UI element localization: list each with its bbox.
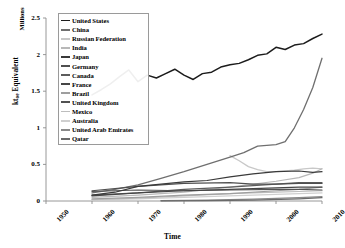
legend-swatch-icon bbox=[61, 47, 70, 49]
legend-swatch-icon bbox=[61, 101, 70, 103]
legend-swatch-icon bbox=[61, 38, 70, 40]
legend-item-canada[interactable]: Canada bbox=[60, 71, 148, 80]
legend-swatch-icon bbox=[61, 56, 70, 58]
legend-item-india[interactable]: India bbox=[60, 43, 148, 52]
legend-label: Brazil bbox=[72, 89, 89, 98]
legend-label: France bbox=[72, 80, 91, 89]
chart-legend: United StatesChinaRussian FederationIndi… bbox=[58, 13, 149, 145]
legend-swatch-icon bbox=[61, 120, 70, 122]
legend-item-qatar[interactable]: Qatar bbox=[60, 134, 148, 143]
legend-label: China bbox=[72, 25, 89, 34]
legend-label: Canada bbox=[72, 71, 94, 80]
legend-label: United Arab Emirates bbox=[72, 125, 133, 134]
legend-item-russian-federation[interactable]: Russian Federation bbox=[60, 34, 148, 43]
legend-item-united-kingdom[interactable]: United Kingdom bbox=[60, 98, 148, 107]
legend-swatch-icon bbox=[61, 29, 70, 31]
legend-item-germany[interactable]: Germany bbox=[60, 61, 148, 70]
legend-swatch-icon bbox=[61, 92, 70, 94]
chart-container: Millions ktoe Equivalent Time 00.511.522… bbox=[0, 0, 345, 248]
legend-label: Qatar bbox=[72, 134, 89, 143]
legend-item-china[interactable]: China bbox=[60, 25, 148, 34]
legend-swatch-icon bbox=[61, 20, 70, 22]
legend-item-australia[interactable]: Australia bbox=[60, 116, 148, 125]
legend-item-united-arab-emirates[interactable]: United Arab Emirates bbox=[60, 125, 148, 134]
legend-swatch-icon bbox=[61, 138, 70, 140]
legend-swatch-icon bbox=[61, 74, 70, 76]
legend-label: Japan bbox=[72, 52, 89, 61]
legend-item-france[interactable]: France bbox=[60, 80, 148, 89]
legend-label: United States bbox=[72, 16, 109, 25]
legend-label: Mexico bbox=[72, 107, 92, 116]
legend-label: Germany bbox=[72, 62, 98, 71]
legend-swatch-icon bbox=[61, 65, 70, 67]
legend-label: Russian Federation bbox=[72, 34, 126, 43]
legend-item-united-states[interactable]: United States bbox=[60, 16, 148, 25]
legend-item-mexico[interactable]: Mexico bbox=[60, 107, 148, 116]
legend-label: India bbox=[72, 43, 87, 52]
series-line-russian-federation bbox=[230, 156, 322, 172]
plot-area bbox=[0, 0, 345, 248]
legend-item-japan[interactable]: Japan bbox=[60, 52, 148, 61]
legend-swatch-icon bbox=[61, 83, 70, 85]
legend-label: United Kingdom bbox=[72, 98, 118, 107]
legend-label: Australia bbox=[72, 116, 98, 125]
legend-swatch-icon bbox=[61, 111, 70, 113]
legend-swatch-icon bbox=[61, 129, 70, 131]
legend-item-brazil[interactable]: Brazil bbox=[60, 89, 148, 98]
